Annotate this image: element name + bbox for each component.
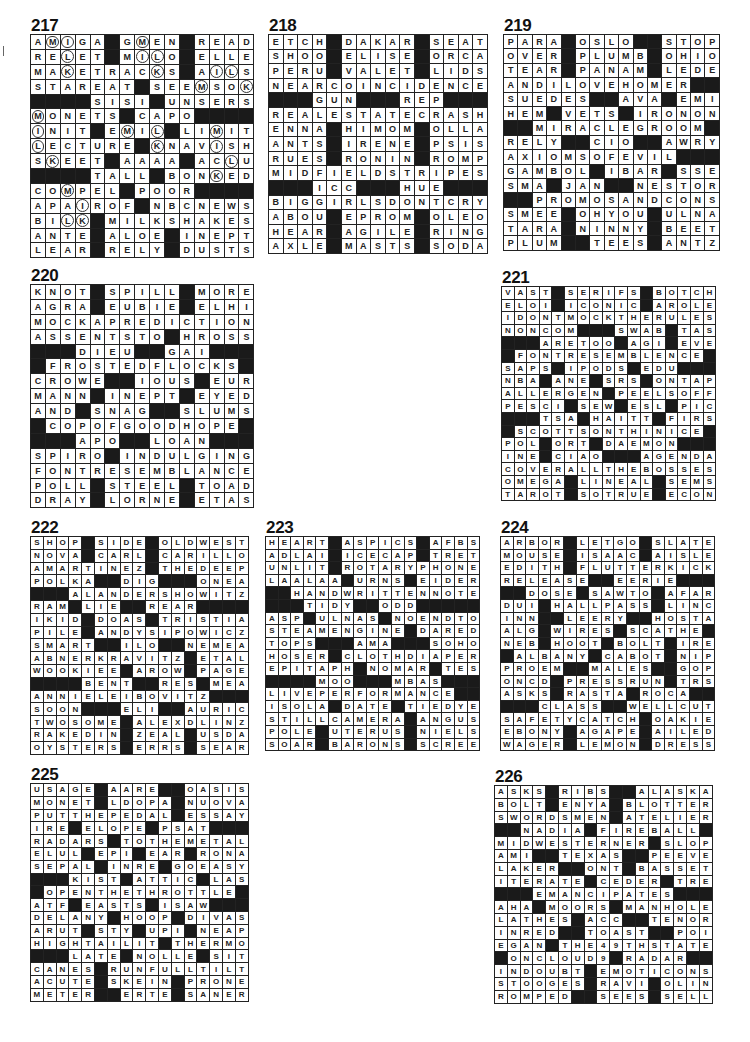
cell-letter: D: [549, 813, 555, 822]
letter-cell: B: [623, 799, 635, 811]
cell-letter: S: [601, 787, 606, 796]
cell-letter: R: [47, 926, 53, 935]
black-square: [539, 638, 551, 650]
crossword-grid: ETCHDAKARSEATSHOOELISEORCAPERUVALETLIDSN…: [268, 34, 488, 254]
cell-letter: A: [567, 601, 573, 610]
cell-letter: S: [229, 141, 235, 151]
black-square: [357, 93, 371, 107]
puzzle-number: 226: [495, 768, 713, 785]
cell-letter: S: [273, 51, 279, 61]
cell-letter: E: [226, 679, 231, 688]
letter-cell: Y: [455, 701, 467, 713]
letter-cell: E: [628, 388, 640, 400]
cell-letter: E: [239, 977, 244, 986]
cell-letter: F: [110, 421, 116, 431]
cell-letter: R: [346, 197, 353, 207]
cell-letter: A: [666, 137, 673, 147]
letter-cell: T: [57, 989, 69, 1001]
letter-cell: E: [533, 208, 546, 221]
cell-letter: C: [630, 551, 636, 560]
cell-letter: A: [617, 601, 623, 610]
cell-letter: A: [213, 666, 219, 675]
letter-cell: O: [468, 638, 480, 650]
letter-cell: C: [459, 50, 473, 64]
black-square: [562, 222, 575, 235]
letter-cell: B: [636, 863, 648, 875]
letter-cell: I: [605, 136, 618, 149]
cell-letter: R: [149, 602, 155, 611]
puzzle-number: 219: [504, 17, 720, 34]
black-square: [386, 181, 400, 195]
letter-cell: T: [91, 109, 105, 123]
letter-cell: V: [518, 49, 531, 62]
letter-cell: R: [636, 837, 648, 849]
cell-letter: L: [567, 614, 572, 623]
cell-letter: U: [331, 95, 338, 105]
black-square: [539, 600, 551, 612]
cell-letter: H: [404, 183, 411, 193]
black-square: [627, 613, 639, 625]
black-square: [185, 729, 197, 741]
cell-letter: O: [187, 785, 193, 794]
letter-cell: N: [666, 375, 678, 387]
letter-cell: I: [105, 389, 119, 403]
cell-letter: P: [95, 436, 101, 446]
letter-cell: O: [195, 419, 209, 433]
cell-letter: A: [477, 241, 484, 251]
letter-cell: F: [515, 350, 527, 362]
letter-cell: A: [316, 663, 328, 675]
cell-letter: S: [707, 313, 712, 322]
cell-letter: Y: [588, 800, 593, 809]
letter-cell: O: [640, 650, 652, 662]
cell-letter: A: [34, 977, 40, 986]
cell-letter: L: [681, 727, 686, 736]
cell-letter: O: [59, 538, 65, 547]
cell-letter: E: [124, 811, 129, 820]
cell-letter: P: [677, 928, 682, 937]
cell-letter: R: [149, 743, 155, 752]
cell-letter: N: [606, 427, 612, 436]
letter-cell: E: [121, 703, 133, 715]
letter-cell: R: [61, 359, 75, 373]
letter-cell: E: [455, 650, 467, 662]
cell-letter: C: [600, 877, 606, 886]
letter-cell: N: [597, 863, 609, 875]
letter-cell: I: [150, 300, 164, 314]
letter-cell: E: [165, 493, 179, 507]
black-square: [239, 419, 253, 433]
letter-cell: A: [31, 229, 45, 243]
letter-cell: S: [640, 663, 652, 675]
cell-letter: P: [477, 154, 483, 164]
black-square: [146, 550, 158, 562]
letter-cell: T: [69, 810, 81, 822]
cell-letter: N: [382, 740, 388, 749]
cell-letter: O: [655, 715, 661, 724]
letter-cell: I: [197, 912, 209, 924]
cell-letter: R: [568, 439, 574, 448]
cell-letter: E: [282, 538, 287, 547]
black-square: [473, 181, 487, 195]
letter-cell: A: [279, 575, 291, 587]
letter-cell: A: [551, 575, 563, 587]
letter-cell: L: [589, 600, 601, 612]
letter-cell: O: [185, 784, 197, 796]
crossword-grid: KNOTSPILLMOREAGRAEUBIEELHIMOCKAPREDICTIO…: [30, 284, 254, 508]
letter-cell: E: [589, 676, 601, 688]
cell-letter: E: [404, 227, 410, 237]
letter-cell: A: [298, 225, 312, 239]
cell-letter: S: [568, 288, 573, 297]
cell-letter: A: [273, 241, 280, 251]
black-square: [417, 537, 429, 549]
black-square: [159, 938, 171, 950]
cell-letter: O: [369, 689, 375, 698]
letter-cell: U: [533, 236, 546, 249]
letter-cell: I: [57, 614, 69, 626]
letter-cell: L: [291, 562, 303, 574]
cell-letter: E: [213, 564, 218, 573]
letter-cell: R: [159, 678, 171, 690]
cell-letter: T: [214, 615, 219, 624]
letter-cell: P: [674, 927, 686, 939]
cell-letter: O: [200, 577, 206, 586]
letter-cell: H: [627, 713, 639, 725]
letter-cell: N: [82, 912, 94, 924]
